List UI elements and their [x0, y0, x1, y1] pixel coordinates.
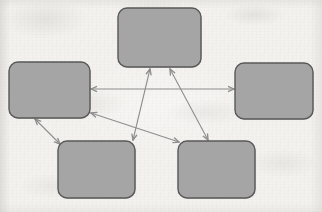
nodes-layer — [9, 8, 314, 199]
connector-node-top-to-node-bottom-right — [170, 69, 208, 140]
diagram-page — [0, 0, 322, 212]
connector-node-left-to-node-bottom-left — [35, 119, 60, 144]
connector-node-left-to-node-right — [91, 87, 234, 92]
node-left[interactable] — [9, 62, 91, 119]
node-right[interactable] — [235, 63, 314, 120]
node-top[interactable] — [118, 8, 202, 68]
node-bottom-right[interactable] — [178, 141, 256, 199]
node-bottom-left[interactable] — [58, 141, 136, 199]
diagram-canvas — [0, 0, 322, 212]
